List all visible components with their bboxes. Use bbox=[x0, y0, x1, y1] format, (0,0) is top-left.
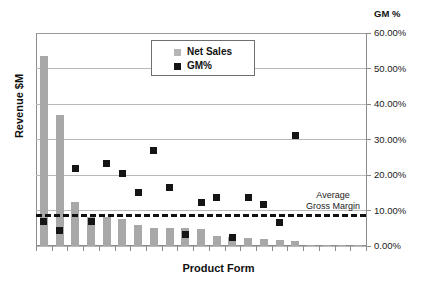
x-tick-14 bbox=[256, 246, 257, 251]
secondary-tick-label-40: 40.00% bbox=[374, 99, 406, 109]
gm-percent-marker bbox=[103, 160, 110, 167]
x-tick-20 bbox=[350, 246, 351, 251]
x-tick-13 bbox=[240, 246, 241, 251]
legend-swatch-net-sales bbox=[174, 49, 181, 56]
secondary-tick-label-60: 60.00% bbox=[374, 28, 406, 38]
chart-container: GM % Revenue $M Product Form 60.00%50.00… bbox=[0, 0, 437, 288]
gm-percent-marker bbox=[276, 219, 283, 226]
legend-item-net-sales: Net Sales bbox=[174, 45, 254, 59]
gm-percent-marker bbox=[213, 194, 220, 201]
average-gross-margin-label-line1: Average bbox=[296, 190, 370, 201]
secondary-tick-label-0: 0.00% bbox=[374, 241, 401, 251]
bar bbox=[150, 228, 158, 246]
bar bbox=[291, 241, 299, 246]
x-tick-1 bbox=[52, 246, 53, 251]
bar bbox=[166, 228, 174, 246]
x-tick-12 bbox=[225, 246, 226, 251]
x-tick-17 bbox=[303, 246, 304, 251]
gm-percent-marker bbox=[229, 234, 236, 241]
x-tick-9 bbox=[177, 246, 178, 251]
gm-percent-marker bbox=[292, 132, 299, 139]
gridline-0 bbox=[36, 246, 366, 247]
legend-swatch-gm-percent bbox=[174, 63, 181, 70]
x-tick-21 bbox=[366, 246, 367, 251]
x-tick-11 bbox=[209, 246, 210, 251]
gm-percent-marker bbox=[260, 201, 267, 208]
bar bbox=[260, 239, 268, 246]
gridline-60 bbox=[36, 33, 366, 34]
bar bbox=[276, 240, 284, 246]
x-tick-7 bbox=[146, 246, 147, 251]
bar bbox=[71, 202, 79, 246]
gm-percent-marker bbox=[150, 147, 157, 154]
bar bbox=[307, 245, 315, 246]
chart-legend: Net Sales GM% bbox=[151, 40, 255, 76]
legend-label-net-sales: Net Sales bbox=[187, 47, 232, 57]
gm-percent-marker bbox=[56, 227, 63, 234]
bar bbox=[134, 225, 142, 246]
x-tick-4 bbox=[99, 246, 100, 251]
x-tick-8 bbox=[162, 246, 163, 251]
secondary-tick-label-30: 30.00% bbox=[374, 135, 406, 145]
x-axis-title: Product Form bbox=[0, 262, 437, 274]
secondary-tick-label-20: 20.00% bbox=[374, 170, 406, 180]
gridline-20 bbox=[36, 175, 366, 176]
gm-percent-marker bbox=[198, 199, 205, 206]
gm-percent-marker bbox=[166, 184, 173, 191]
gm-percent-marker bbox=[245, 194, 252, 201]
secondary-axis-title: GM % bbox=[374, 8, 400, 19]
gm-percent-marker bbox=[182, 231, 189, 238]
bar bbox=[244, 238, 252, 246]
x-tick-3 bbox=[83, 246, 84, 251]
x-tick-5 bbox=[115, 246, 116, 251]
x-tick-18 bbox=[319, 246, 320, 251]
bar bbox=[197, 229, 205, 246]
x-tick-16 bbox=[287, 246, 288, 251]
gm-percent-marker bbox=[88, 218, 95, 225]
average-gross-margin-dashed-line bbox=[36, 214, 366, 217]
gm-percent-marker bbox=[135, 189, 142, 196]
secondary-tick-30 bbox=[366, 139, 371, 140]
average-gross-margin-label: AverageGross Margin bbox=[296, 190, 370, 211]
x-tick-0 bbox=[36, 246, 37, 251]
gm-percent-marker bbox=[72, 165, 79, 172]
secondary-tick-20 bbox=[366, 175, 371, 176]
legend-item-gm-percent: GM% bbox=[174, 59, 254, 73]
x-tick-19 bbox=[335, 246, 336, 251]
y-axis-title: Revenue $M bbox=[13, 51, 25, 161]
average-gross-margin-label-line2: Gross Margin bbox=[296, 201, 370, 212]
bar bbox=[354, 245, 362, 246]
x-tick-2 bbox=[67, 246, 68, 251]
secondary-tick-label-10: 10.00% bbox=[374, 206, 406, 216]
bar bbox=[103, 217, 111, 246]
secondary-tick-60 bbox=[366, 33, 371, 34]
bar bbox=[213, 236, 221, 246]
gridline-40 bbox=[36, 104, 366, 105]
legend-label-gm-percent: GM% bbox=[187, 61, 212, 71]
gm-percent-marker bbox=[40, 218, 47, 225]
secondary-tick-label-50: 50.00% bbox=[374, 64, 406, 74]
x-tick-15 bbox=[272, 246, 273, 251]
bar bbox=[323, 245, 331, 246]
x-tick-10 bbox=[193, 246, 194, 251]
gridline-30 bbox=[36, 139, 366, 140]
gm-percent-marker bbox=[119, 170, 126, 177]
bar bbox=[338, 245, 346, 246]
secondary-tick-40 bbox=[366, 104, 371, 105]
bar bbox=[118, 219, 126, 246]
secondary-tick-50 bbox=[366, 68, 371, 69]
x-tick-6 bbox=[130, 246, 131, 251]
